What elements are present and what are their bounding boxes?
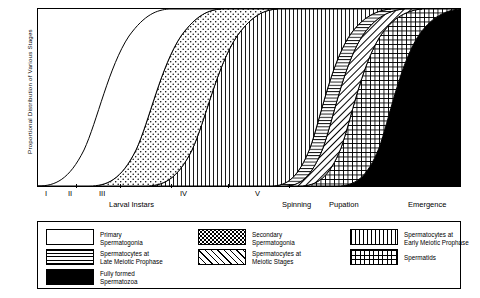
legend-label-spermatocytes-late-meiotic-prophase: Spermatocytes at Late Meiotic Prophase xyxy=(100,250,163,265)
y-axis-label: Proportional Distribution of Various Sta… xyxy=(26,2,33,182)
x-group-label-emergence: Emergence xyxy=(408,200,446,209)
legend-swatch-horizontal-hatch xyxy=(46,249,94,265)
legend-label-spermatozoa: Fully formed Spermatozoa xyxy=(100,270,137,285)
legend-label-spermatids: Spermatids xyxy=(404,254,436,262)
x-tick-mark xyxy=(289,184,290,188)
legend-label-spermatocytes-meiotic-stages: Spermatocytes at Meiotic Stages xyxy=(252,250,301,265)
x-axis-group-labels: Larval Instars Spinning Pupation Emergen… xyxy=(37,200,461,214)
legend-label-secondary-spermatogonia: Secondary Spermatogonia xyxy=(252,231,295,246)
legend-swatch-white xyxy=(46,229,94,245)
x-tick-mark xyxy=(171,184,172,188)
legend-label-spermatocytes-early-meiotic-prophase: Spermatocytes at Early Meiotic Prophase xyxy=(404,231,469,246)
x-tick-mark xyxy=(76,184,77,188)
x-tick-label-4: IV xyxy=(180,189,187,198)
x-tick-mark xyxy=(120,184,121,188)
legend-swatch-black xyxy=(46,269,94,285)
x-tick-label-2: II xyxy=(68,189,72,198)
x-group-label-larval-instars: Larval Instars xyxy=(109,200,154,209)
x-tick-label-1: I xyxy=(45,189,47,198)
x-group-label-pupation: Pupation xyxy=(329,200,359,209)
chart-figure: Proportional Distribution of Various Sta… xyxy=(0,0,480,298)
x-tick-mark xyxy=(228,184,229,188)
legend-swatch-diagonal-hatch xyxy=(198,249,246,265)
legend-swatch-dotted xyxy=(198,229,246,245)
legend-swatch-vertical-hatch xyxy=(350,229,398,245)
x-tick-label-5: V xyxy=(255,189,260,198)
legend-swatch-cross-hatch xyxy=(350,249,398,265)
x-group-label-spinning: Spinning xyxy=(282,200,311,209)
x-tick-label-3: III xyxy=(99,189,105,198)
legend: Primary Spermatogonia Spermatocytes at L… xyxy=(37,221,461,289)
legend-label-primary-spermatogonia: Primary Spermatogonia xyxy=(100,231,143,246)
plot-area xyxy=(37,8,461,187)
